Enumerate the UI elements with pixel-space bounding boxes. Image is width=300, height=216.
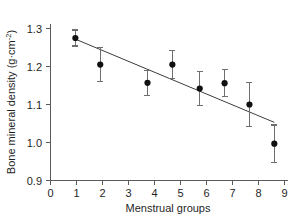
regression-line: [75, 39, 274, 122]
data-point-marker: [144, 80, 150, 86]
y-axis-title-close: ): [5, 30, 17, 34]
y-axis-title-main: Bone mineral density (g: [5, 59, 17, 175]
y-axis-title-sup: -2: [4, 34, 13, 41]
x-tick-label-0: 0: [47, 187, 53, 199]
y-tick-label-0: 1.3: [27, 23, 42, 35]
x-axis-title: Menstrual groups: [126, 202, 211, 214]
data-point-marker: [169, 62, 175, 68]
x-tick-label-7: 7: [229, 187, 235, 199]
x-tick-label-4: 4: [151, 187, 157, 199]
y-axis-ticks: 1.3 1.2 1.1 1.0 0.9: [27, 23, 51, 187]
x-tick-label-9: 9: [281, 187, 287, 199]
data-point-marker: [197, 85, 203, 91]
chart-canvas: 1.3 1.2 1.1 1.0 0.9 0 1 2 3 4 5: [0, 0, 300, 216]
data-point-group: [72, 30, 78, 46]
data-point-group: [169, 51, 175, 78]
x-tick-label-5: 5: [177, 187, 183, 199]
data-point-group: [221, 70, 227, 97]
x-tick-label-3: 3: [125, 187, 131, 199]
y-tick-label-2: 1.1: [27, 99, 42, 111]
data-point-group: [144, 70, 150, 95]
data-point-group: [97, 48, 103, 82]
y-axis-title: Bone mineral density (g·cm-2): [4, 30, 17, 174]
axes-group: [51, 24, 289, 181]
x-tick-label-1: 1: [73, 187, 79, 199]
y-tick-label-3: 1.0: [27, 137, 42, 149]
y-axis-title-mid: cm: [5, 40, 17, 55]
x-tick-label-2: 2: [99, 187, 105, 199]
data-point-group: [197, 72, 203, 105]
data-point-group: [271, 125, 277, 162]
data-point-marker: [72, 35, 78, 41]
data-point-marker: [271, 141, 277, 147]
data-series: [72, 30, 277, 162]
y-tick-label-1: 1.2: [27, 61, 42, 73]
y-tick-label-4: 0.9: [27, 175, 42, 187]
x-axis-ticks: 0 1 2 3 4 5 6 7 8 9: [47, 181, 287, 200]
data-point-marker: [221, 80, 227, 86]
chart-figure: 1.3 1.2 1.1 1.0 0.9 0 1 2 3 4 5: [0, 0, 300, 216]
data-point-group: [246, 82, 252, 127]
x-tick-label-6: 6: [203, 187, 209, 199]
data-point-marker: [246, 101, 252, 107]
x-tick-label-8: 8: [255, 187, 261, 199]
y-axis-title-text: Bone mineral density (g·cm-2): [4, 30, 17, 174]
data-point-marker: [97, 62, 103, 68]
